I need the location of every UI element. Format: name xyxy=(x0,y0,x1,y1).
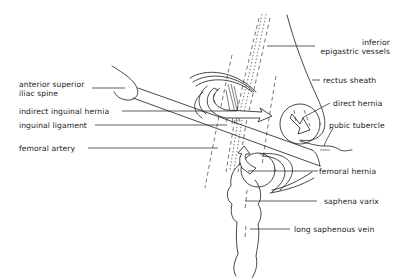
label-direct-hernia: direct hernia xyxy=(333,99,382,108)
label-line: iliac spine xyxy=(19,89,85,98)
label-line: anterior superior xyxy=(19,80,85,89)
label-saphena-varix: saphena varix xyxy=(324,197,379,206)
label-line: inferior xyxy=(310,38,390,47)
label-femoral-artery: femoral artery xyxy=(19,144,75,153)
inguinal-ligament-band xyxy=(133,88,320,166)
inferior-epigastric-vessels xyxy=(226,14,270,172)
label-indirect-inguinal-hernia: indirect inguinal hernia xyxy=(19,107,109,116)
label-long-saphenous-vein: long saphenous vein xyxy=(294,225,374,234)
label-rectus-sheath: rectus sheath xyxy=(323,76,376,85)
label-inguinal-ligament: inguinal ligament xyxy=(19,121,87,130)
label-femoral-hernia: femoral hernia xyxy=(319,167,376,176)
label-pubic-tubercle: pubic tubercle xyxy=(329,121,385,130)
label-inferior-epigastric-vessels: inferior epigastric vessels xyxy=(310,38,390,56)
saphenous-vein-drawing xyxy=(227,164,261,278)
direct-hernia-drawing xyxy=(280,104,320,144)
indirect-inguinal-hernia-drawing xyxy=(190,72,272,124)
label-line: epigastric vessels xyxy=(310,47,390,56)
femoral-artery-outline xyxy=(205,55,276,188)
leader-lines xyxy=(88,46,333,229)
rectus-sheath-outline xyxy=(287,15,325,141)
femoral-hernia-drawing xyxy=(238,146,314,193)
iliac-spine-bone xyxy=(112,66,138,100)
label-anterior-superior-iliac-spine: anterior superior iliac spine xyxy=(19,80,85,98)
